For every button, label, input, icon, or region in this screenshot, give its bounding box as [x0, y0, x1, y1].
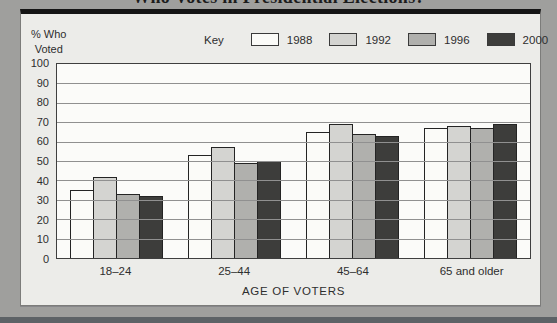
x-label-4: 65 and older [412, 265, 531, 277]
legend-item-1992: 1992 [329, 33, 391, 46]
legend-swatch-1992 [329, 33, 357, 46]
y-axis-title: % Who Voted [31, 27, 66, 58]
gridline-20 [57, 219, 530, 220]
bar-1992 [211, 147, 235, 258]
gridline-60 [57, 142, 530, 143]
bar-1988 [188, 155, 212, 258]
legend-label-1996: 1996 [444, 34, 470, 46]
x-label-2: 25–44 [175, 265, 294, 277]
bar-1996 [116, 194, 140, 258]
gridline-80 [57, 103, 530, 104]
legend-label-2000: 2000 [523, 34, 549, 46]
y-tick-90: 90 [37, 77, 49, 89]
gridline-10 [57, 239, 530, 240]
y-tick-20: 20 [37, 214, 49, 226]
legend: Key 1988199219962000 [204, 33, 548, 46]
y-tick-0: 0 [43, 253, 49, 265]
y-tick-10: 10 [37, 233, 49, 245]
x-label-3: 45–64 [294, 265, 413, 277]
y-tick-40: 40 [37, 175, 49, 187]
legend-items: 1988199219962000 [251, 33, 548, 46]
y-tick-100: 100 [31, 57, 49, 69]
legend-item-2000: 2000 [487, 33, 549, 46]
chart-title: Who Votes in Presidential Elections? [0, 0, 557, 8]
y-tick-80: 80 [37, 96, 49, 108]
legend-item-1996: 1996 [408, 33, 470, 46]
y-axis: 0102030405060708090100 [21, 63, 56, 259]
legend-swatch-1996 [408, 33, 436, 46]
gridline-90 [57, 83, 530, 84]
bar-2000 [139, 196, 163, 258]
bar-2000 [257, 161, 281, 258]
gridline-50 [57, 161, 530, 162]
legend-label-1992: 1992 [365, 34, 391, 46]
legend-key-label: Key [204, 34, 224, 46]
gridline-30 [57, 200, 530, 201]
chart-card: % Who Voted Key 1988199219962000 0102030… [20, 9, 541, 306]
legend-label-1988: 1988 [287, 34, 313, 46]
x-label-1: 18–24 [56, 265, 175, 277]
gridline-70 [57, 122, 530, 123]
x-axis-title: AGE OF VOTERS [56, 285, 531, 297]
y-tick-50: 50 [37, 155, 49, 167]
bar-1992 [93, 177, 117, 258]
legend-swatch-2000 [487, 33, 515, 46]
y-tick-70: 70 [37, 116, 49, 128]
bottom-stripe [0, 317, 557, 323]
plot-area [56, 63, 531, 259]
gridline-40 [57, 180, 530, 181]
bar-2000 [375, 136, 399, 258]
legend-swatch-1988 [251, 33, 279, 46]
y-tick-60: 60 [37, 135, 49, 147]
legend-item-1988: 1988 [251, 33, 313, 46]
y-tick-30: 30 [37, 194, 49, 206]
bar-1996 [234, 163, 258, 258]
x-axis-labels: 18–2425–4445–6465 and older [56, 265, 531, 277]
